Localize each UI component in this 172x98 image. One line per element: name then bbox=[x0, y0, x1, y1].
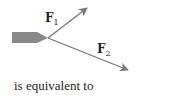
force-arrow-f2 bbox=[48, 38, 128, 70]
force-label-f1: F1 bbox=[45, 11, 59, 27]
caption-text: is equivalent to bbox=[14, 78, 93, 94]
body-tail-shape bbox=[12, 32, 48, 43]
force-label-f2: F2 bbox=[97, 42, 111, 58]
